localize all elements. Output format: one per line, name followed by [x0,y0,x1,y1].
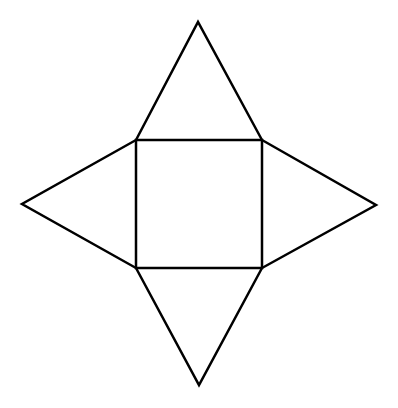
diagram-svg [0,0,398,408]
base-square [136,140,262,268]
triangle-face-bottom [136,268,262,385]
triangle-face-left [22,140,136,268]
pyramid-net-diagram [0,0,398,408]
triangle-face-right [262,140,376,268]
triangle-face-top [136,22,262,140]
